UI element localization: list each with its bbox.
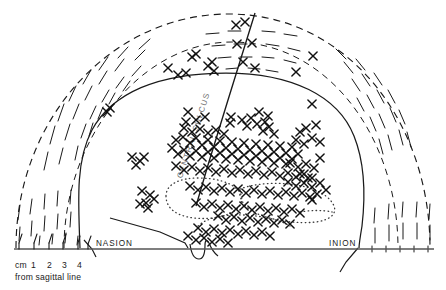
electrode-point — [296, 209, 304, 217]
electrode-point — [266, 232, 274, 240]
electrode-point — [255, 108, 263, 116]
inion-descender-line — [340, 248, 358, 272]
hatching-right — [336, 49, 430, 252]
electrode-point — [172, 136, 180, 144]
electrode-point — [242, 227, 250, 235]
electrode-point — [258, 228, 266, 236]
electrode-point — [244, 170, 252, 178]
electrode-point — [296, 170, 304, 178]
electrode-point — [132, 161, 140, 169]
electrode-point — [272, 204, 280, 212]
electrode-point — [218, 229, 226, 237]
electrode-point — [278, 216, 286, 224]
scalp-outline-dashed — [16, 14, 430, 248]
electrode-point — [232, 21, 240, 29]
scale-tick-3: 3 — [62, 260, 67, 270]
nasion-label: NASION — [96, 239, 133, 248]
electrode-point — [250, 231, 258, 239]
electrode-point — [140, 153, 148, 161]
electrode-point — [254, 218, 262, 226]
electrode-point — [284, 178, 292, 186]
electrode-point — [216, 204, 224, 212]
electrode-point — [260, 171, 268, 179]
electrode-point — [292, 68, 300, 76]
electrode-point — [150, 195, 158, 203]
electrode-point — [316, 154, 324, 162]
electrode-point — [224, 201, 232, 209]
electrode-point — [226, 188, 234, 196]
electrode-point — [186, 182, 194, 190]
scale-tick-1: 1 — [31, 260, 36, 270]
scale-tick-2: 2 — [47, 260, 52, 270]
electrode-point — [184, 108, 192, 116]
electrode-point — [241, 18, 249, 26]
electrode-point — [236, 166, 244, 174]
electrode-point — [312, 121, 320, 129]
electrode-point — [304, 174, 312, 182]
electrode-point — [243, 122, 251, 130]
electrode-point — [270, 219, 278, 227]
electrode-point — [202, 183, 210, 191]
electrode-point — [196, 167, 204, 175]
electrode-point — [280, 208, 288, 216]
electrode-point — [268, 168, 276, 176]
electrode-point — [276, 172, 284, 180]
electrode-point — [309, 52, 317, 60]
electrode-point — [208, 58, 216, 66]
electrode-point — [210, 187, 218, 195]
electrode-point — [300, 140, 308, 148]
electrode-point — [322, 186, 330, 194]
electrode-point — [258, 190, 266, 198]
electrode-point — [128, 153, 136, 161]
electrode-point — [316, 138, 324, 146]
electrode-point — [274, 191, 282, 199]
electrode-point — [264, 207, 272, 215]
electrode-point — [238, 217, 246, 225]
electrode-point — [302, 160, 310, 168]
electrode-point — [200, 234, 208, 242]
electrode-point — [262, 215, 270, 223]
electrode-point — [288, 205, 296, 213]
electrode-point — [224, 239, 232, 247]
electrode-point — [292, 182, 300, 190]
electrode-point — [174, 71, 182, 79]
electrode-point — [310, 164, 318, 172]
electrode-point — [212, 168, 220, 176]
electrode-point — [282, 188, 290, 196]
electrode-point — [210, 225, 218, 233]
electrode-point — [230, 213, 238, 221]
electrode-point — [220, 165, 228, 173]
electrode-point — [266, 187, 274, 195]
electrode-point — [180, 124, 188, 132]
electrode-point — [270, 130, 278, 138]
scale-caption: from sagittal line — [15, 272, 81, 282]
electrode-point — [208, 200, 216, 208]
electrode-point — [248, 206, 256, 214]
electrode-point — [192, 50, 200, 58]
electrode-point — [138, 187, 146, 195]
electrode-point — [234, 230, 242, 238]
electrode-point — [250, 186, 258, 194]
electrode-point — [290, 192, 298, 200]
electrode-point — [246, 214, 254, 222]
electrode-point — [200, 203, 208, 211]
scale-tick-4: 4 — [77, 260, 82, 270]
electrode-point — [256, 203, 264, 211]
electrode-point — [228, 169, 236, 177]
electrode-point — [188, 163, 196, 171]
electrode-point — [308, 196, 316, 204]
electrode-point — [222, 216, 230, 224]
electrode-point — [202, 228, 210, 236]
electrode-point — [240, 202, 248, 210]
electrode-point — [232, 205, 240, 213]
electrode-point — [226, 226, 234, 234]
electrode-point — [164, 64, 172, 72]
electrode-points-layer — [103, 18, 330, 247]
electrode-point — [294, 163, 302, 171]
electrode-point — [226, 119, 234, 127]
electrode-point — [136, 200, 144, 208]
electrode-point — [216, 235, 224, 243]
scale-unit-label: cm — [15, 260, 27, 270]
electrode-point — [308, 183, 316, 191]
electrode-point — [210, 67, 218, 75]
